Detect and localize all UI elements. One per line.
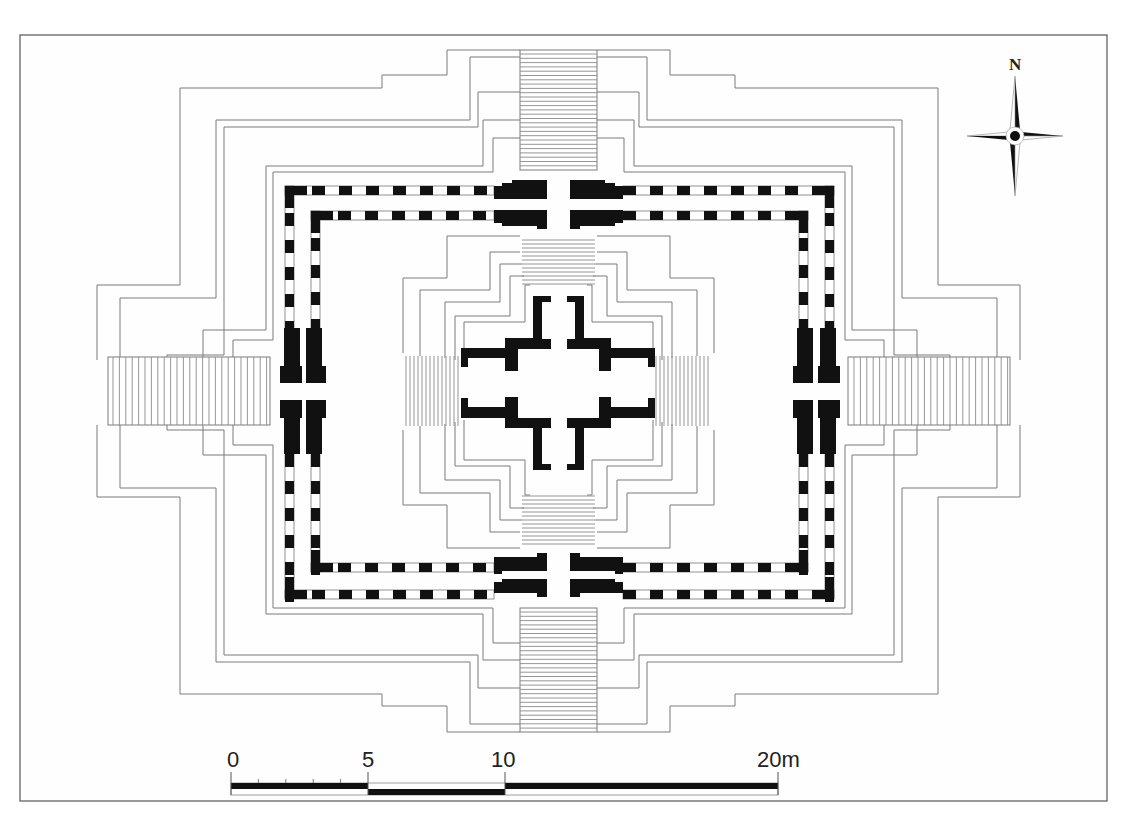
west-staircase xyxy=(108,357,270,425)
scale-label-0: 0 xyxy=(227,747,239,772)
site-plan: N 0 5 10 20m xyxy=(0,0,1128,834)
north-label: N xyxy=(1009,55,1022,74)
south-staircase xyxy=(520,608,597,732)
east-staircase xyxy=(848,357,1010,425)
scale-label-20m: 20m xyxy=(757,747,800,772)
scale-label-5: 5 xyxy=(362,747,374,772)
scale-label-10: 10 xyxy=(491,747,515,772)
north-staircase xyxy=(520,50,597,170)
